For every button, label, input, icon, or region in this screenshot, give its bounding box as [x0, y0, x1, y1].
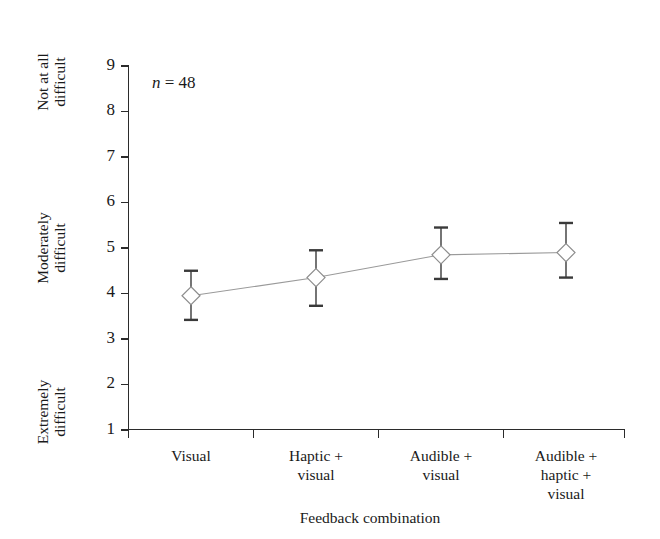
sample-size-n: n — [152, 73, 161, 92]
y-category-label-moderately-difficult: Moderately difficult — [34, 212, 68, 284]
data-point-group-3 — [432, 228, 450, 279]
series-line-path — [191, 253, 566, 296]
x-cat-2-line1: Haptic + — [289, 447, 343, 464]
y-cat-mid-line2: difficult — [51, 222, 68, 272]
y-tick-label-1: 1 — [107, 419, 116, 438]
line-chart-svg: 9 8 7 6 5 4 3 2 1 Not at all difficult M… — [0, 0, 660, 539]
chart-figure: 9 8 7 6 5 4 3 2 1 Not at all difficult M… — [0, 0, 660, 539]
y-tick-label-7: 7 — [107, 146, 116, 165]
y-cat-bot-line1: Extremely — [34, 379, 51, 444]
y-category-label-extremely-difficult: Extremely difficult — [34, 379, 68, 444]
data-series-layer — [182, 223, 575, 320]
sample-size-value: = 48 — [161, 73, 196, 92]
x-axis-label-haptic-visual: Haptic + visual — [289, 447, 343, 483]
x-axis-label-visual: Visual — [171, 447, 211, 464]
y-cat-mid-line1: Moderately — [34, 212, 51, 284]
y-cat-bot-line2: difficult — [51, 386, 68, 436]
y-tick-label-5: 5 — [107, 237, 116, 256]
y-axis-tick-labels: 9 8 7 6 5 4 3 2 1 — [107, 55, 116, 438]
y-axis-ticks — [121, 66, 129, 430]
data-marker-2 — [307, 269, 325, 287]
x-cat-1-line1: Visual — [171, 447, 211, 464]
data-point-group-1 — [182, 271, 200, 320]
x-cat-4-line1: Audible + — [535, 447, 598, 464]
x-cat-4-line3: visual — [547, 485, 584, 502]
x-axis-label-audible-haptic-visual: Audible + haptic + visual — [535, 447, 598, 502]
y-tick-label-3: 3 — [107, 328, 116, 347]
data-marker-1 — [182, 287, 200, 305]
data-point-group-4 — [557, 223, 575, 278]
x-cat-3-line2: visual — [422, 466, 459, 483]
data-point-group-2 — [307, 250, 325, 306]
x-cat-2-line2: visual — [297, 466, 334, 483]
y-tick-label-9: 9 — [107, 55, 116, 74]
x-axis-title: Feedback combination — [300, 509, 441, 526]
data-marker-3 — [432, 246, 450, 264]
x-axis-ticks — [129, 430, 625, 438]
y-tick-label-4: 4 — [107, 282, 116, 301]
x-axis-label-audible-visual: Audible + visual — [410, 447, 473, 483]
y-cat-top-line2: difficult — [51, 56, 68, 106]
y-cat-top-line1: Not at all — [34, 53, 51, 111]
x-cat-3-line1: Audible + — [410, 447, 473, 464]
y-tick-label-6: 6 — [107, 191, 116, 210]
sample-size-annotation: n = 48 — [152, 73, 196, 92]
x-cat-4-line2: haptic + — [541, 466, 592, 483]
data-marker-4 — [557, 244, 575, 262]
y-tick-label-2: 2 — [107, 373, 116, 392]
y-category-label-not-at-all-difficult: Not at all difficult — [34, 53, 68, 111]
y-tick-label-8: 8 — [107, 100, 116, 119]
